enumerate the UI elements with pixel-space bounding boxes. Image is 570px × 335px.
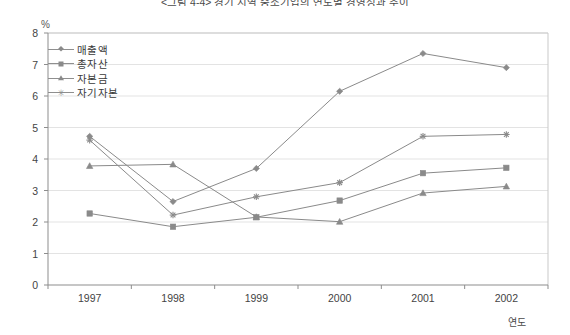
- x-tick-label: 1997: [60, 292, 120, 304]
- x-tick-label: 1998: [143, 292, 203, 304]
- series-line: [90, 134, 507, 215]
- legend-item-4[interactable]: ✳자기자본: [48, 86, 152, 101]
- y-tick-label: 3: [14, 186, 38, 196]
- y-tick-label: 2: [14, 217, 38, 227]
- legend-label: 총자산: [74, 56, 108, 71]
- legend-label: 자기자본: [74, 85, 118, 100]
- data-point-marker: [87, 211, 92, 216]
- legend-label: 매출액: [74, 42, 108, 57]
- data-point-marker: [420, 50, 426, 56]
- legend-label: 자본금: [74, 71, 108, 86]
- y-tick-label: 5: [14, 123, 38, 133]
- y-tick-label: 1: [14, 249, 38, 259]
- series-line: [90, 164, 507, 221]
- series-3: [86, 161, 509, 224]
- triangle-marker-icon: [58, 76, 64, 81]
- x-tick-label: 2002: [476, 292, 536, 304]
- legend-marker-square-icon: [48, 58, 74, 70]
- chart-title: <그림 4-4> 경기 지역 중소기업의 연도별 경영성과 추이: [0, 0, 570, 6]
- data-point-marker: [504, 165, 509, 170]
- series-4: [86, 131, 509, 218]
- legend-item-1[interactable]: 매출액: [48, 42, 152, 57]
- x-axis-title: 연도: [508, 314, 526, 329]
- data-point-marker: [337, 198, 342, 203]
- square-marker-icon: [59, 61, 64, 66]
- y-tick-label: 8: [14, 28, 38, 38]
- legend-marker-triangle-icon: [48, 72, 74, 84]
- chart-legend: 매출액총자산자본금✳자기자본: [48, 42, 152, 100]
- x-tick-label: 2001: [393, 292, 453, 304]
- y-axis-unit-label: %: [41, 19, 50, 30]
- x-tick-label: 1999: [226, 292, 286, 304]
- legend-marker-star-icon: ✳: [48, 87, 74, 99]
- star-marker-icon: ✳: [57, 90, 65, 95]
- diamond-marker-icon: [58, 46, 64, 52]
- data-point-marker: [170, 224, 175, 229]
- legend-item-3[interactable]: 자본금: [48, 71, 152, 86]
- chart-container: <그림 4-4> 경기 지역 중소기업의 연도별 경영성과 추이 % 87654…: [0, 0, 570, 335]
- data-point-marker: [503, 65, 509, 71]
- y-tick-label: 7: [14, 60, 38, 70]
- legend-marker-diamond-icon: [48, 43, 74, 55]
- y-tick-label: 6: [14, 91, 38, 101]
- legend-item-2[interactable]: 총자산: [48, 57, 152, 72]
- series-line: [90, 168, 507, 227]
- y-tick-label: 4: [14, 154, 38, 164]
- y-tick-label: 0: [14, 280, 38, 290]
- data-point-marker: [420, 170, 425, 175]
- x-tick-label: 2000: [310, 292, 370, 304]
